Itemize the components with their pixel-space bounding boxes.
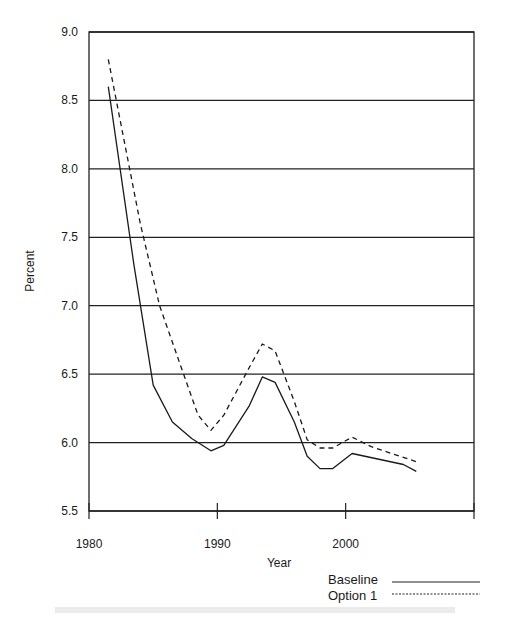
blurred-caption [55, 607, 455, 613]
y-tick-label: 7.0 [61, 299, 78, 313]
baseline-line [108, 87, 416, 472]
line-chart: 5.56.06.57.07.58.08.59.0198019902000Year… [0, 0, 505, 624]
y-tick-label: 6.0 [61, 436, 78, 450]
y-axis-title: Percent [23, 250, 37, 292]
x-tick-label: 1980 [76, 537, 103, 551]
y-tick-label: 6.5 [61, 367, 78, 381]
plot-frame [89, 32, 474, 511]
x-tick-label: 2000 [332, 537, 359, 551]
y-tick-label: 5.5 [61, 504, 78, 518]
legend-label-baseline: Baseline [328, 572, 378, 587]
option1-line [108, 59, 416, 461]
legend-label-option1: Option 1 [328, 588, 377, 603]
y-tick-label: 8.5 [61, 93, 78, 107]
y-tick-label: 7.5 [61, 230, 78, 244]
x-axis-title: Year [267, 556, 291, 570]
x-tick-label: 1990 [204, 537, 231, 551]
y-tick-label: 9.0 [61, 25, 78, 39]
y-tick-label: 8.0 [61, 162, 78, 176]
